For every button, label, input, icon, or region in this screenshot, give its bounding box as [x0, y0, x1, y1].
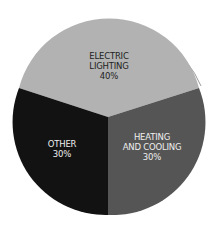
label-value: 30% — [112, 152, 192, 162]
label-value: 30% — [38, 149, 86, 159]
label-text: LIGHTING — [72, 61, 146, 71]
label-value: 40% — [72, 71, 146, 81]
pie-chart — [0, 0, 215, 229]
label-other: OTHER 30% — [38, 139, 86, 159]
label-text: ELECTRIC — [72, 51, 146, 61]
label-electric-lighting: ELECTRIC LIGHTING 40% — [72, 51, 146, 81]
label-heating-cooling: HEATING AND COOLING 30% — [112, 132, 192, 162]
label-text: OTHER — [38, 139, 86, 149]
label-text: HEATING — [112, 132, 192, 142]
label-text: AND COOLING — [112, 142, 192, 152]
